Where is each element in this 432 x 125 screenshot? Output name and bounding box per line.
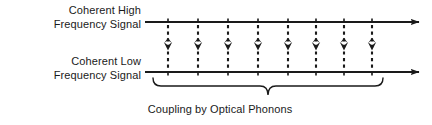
coupling-arrowhead-down <box>254 42 262 50</box>
coupling-arrow <box>312 25 320 69</box>
coupling-arrowhead-down <box>224 42 232 50</box>
coupling-arrowhead-up <box>341 38 348 43</box>
coupling-arrowhead-down <box>340 42 348 50</box>
coupling-arrowhead-down <box>164 42 172 50</box>
coupling-caption: Coupling by Optical Phonons <box>110 103 330 116</box>
coupling-arrow <box>368 25 376 69</box>
coupling-arrowhead-up <box>369 38 376 43</box>
coupling-arrow <box>224 25 232 69</box>
coupling-arrowhead-up <box>313 38 320 43</box>
coupling-arrow <box>164 25 172 69</box>
coupling-arrowhead-up <box>195 38 202 43</box>
coupling-arrow <box>340 25 348 69</box>
coupling-arrowhead-down <box>284 42 292 50</box>
coupling-arrowhead-up <box>165 38 172 43</box>
coupling-arrowhead-down <box>312 42 320 50</box>
coupling-brace <box>153 78 383 95</box>
signal-axes-group <box>145 22 419 72</box>
coupling-arrow <box>284 25 292 69</box>
coupling-arrowhead-down <box>194 42 202 50</box>
coupling-arrowhead-up <box>255 38 262 43</box>
coupling-diagram: Coherent High Frequency Signal Coherent … <box>0 0 432 125</box>
coupling-arrows-group <box>164 25 376 69</box>
coupling-arrowhead-up <box>285 38 292 43</box>
coupling-arrow <box>194 25 202 69</box>
coupling-arrow <box>254 25 262 69</box>
coupling-arrowhead-down <box>368 42 376 50</box>
coupling-arrowhead-up <box>225 38 232 43</box>
